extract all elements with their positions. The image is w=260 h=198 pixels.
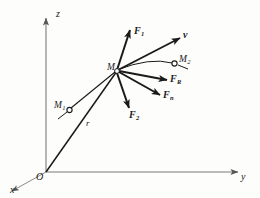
vector-label-position-r: r xyxy=(86,119,90,128)
point-marker-m xyxy=(115,69,120,74)
axis-label-origin: O xyxy=(36,172,43,182)
point-marker-m1 xyxy=(67,107,72,112)
vector-label-force-normal: Fn xyxy=(163,90,173,100)
point-marker-m2 xyxy=(172,61,177,66)
axis-label-y: y xyxy=(241,172,245,182)
vector-label-force-resultant: FR xyxy=(170,74,181,84)
diagram-canvas xyxy=(0,0,260,198)
axis-label-x: x xyxy=(10,185,14,195)
axis-label-z: z xyxy=(56,9,60,19)
vector-label-force-2: F2 xyxy=(129,110,139,120)
vector-label-velocity: v xyxy=(183,30,187,40)
point-label-m2: M2 xyxy=(179,55,190,65)
position-vector-r xyxy=(46,71,117,172)
vector-force-2 xyxy=(117,73,129,108)
point-label-m1: M1 xyxy=(54,101,65,111)
vector-diagram-figure: z y x O M M1 M2 F1 v FR Fn F2 r xyxy=(0,0,260,198)
vector-label-force-1: F1 xyxy=(134,26,144,36)
point-label-m: M xyxy=(107,63,115,73)
vector-velocity xyxy=(118,38,180,70)
line-to-point-m1 xyxy=(58,72,115,119)
